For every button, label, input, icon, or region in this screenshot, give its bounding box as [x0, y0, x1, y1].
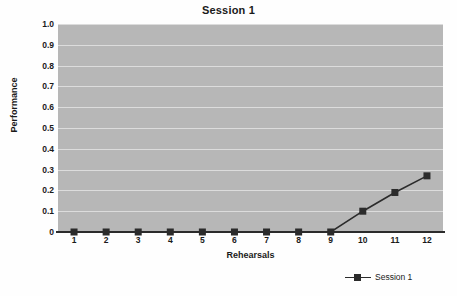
x-axis-tick-label: 6: [221, 236, 247, 245]
legend-square-marker-icon: [345, 273, 371, 282]
legend-marker: [354, 274, 361, 281]
chart-legend: Session 1: [345, 272, 412, 282]
chart-container: Session 1 Performance 00.10.20.30.40.50.…: [0, 0, 457, 296]
y-axis-tick-label: 0.4: [20, 145, 54, 154]
y-axis-tick-label: 1.0: [20, 20, 54, 29]
y-axis-tick-label: 0.9: [20, 41, 54, 50]
y-axis-title: Performance: [9, 60, 19, 150]
y-axis-tick-label: 0.3: [20, 165, 54, 174]
x-axis-tick-label: 4: [157, 236, 183, 245]
x-axis-tick-label: 9: [318, 236, 344, 245]
x-axis-tick-label: 3: [125, 236, 151, 245]
data-point-marker: [391, 189, 398, 196]
y-axis-tick-label: 0.5: [20, 124, 54, 133]
series-polyline: [74, 176, 427, 232]
data-point-marker: [359, 208, 366, 215]
x-axis-tick-label: 2: [93, 236, 119, 245]
plot-area: [58, 24, 443, 232]
y-axis-tick-label: 0.7: [20, 82, 54, 91]
series-line-session-1: [58, 24, 443, 232]
y-axis-tick-label: 0.1: [20, 207, 54, 216]
data-point-marker: [423, 172, 430, 179]
x-axis-tick-label: 7: [254, 236, 280, 245]
x-axis-tick-label: 1: [61, 236, 87, 245]
x-axis-tick-label: 10: [350, 236, 376, 245]
x-axis-tick-label: 12: [414, 236, 440, 245]
y-axis-tick-label: 0: [20, 228, 54, 237]
x-axis-title: Rehearsals: [58, 250, 443, 260]
x-axis-tick-label: 5: [189, 236, 215, 245]
legend-label-session-1: Session 1: [375, 272, 412, 282]
chart-title: Session 1: [0, 4, 457, 16]
y-axis-tick-label: 0.6: [20, 103, 54, 112]
y-axis-tick-label: 0.2: [20, 186, 54, 195]
x-axis-tick-label: 8: [286, 236, 312, 245]
y-axis-tick-labels: 00.10.20.30.40.50.60.70.80.91.0: [20, 24, 54, 232]
x-axis-tick-labels: 123456789101112: [58, 236, 443, 250]
y-axis-tick-label: 0.8: [20, 61, 54, 70]
x-axis-tick-label: 11: [382, 236, 408, 245]
x-axis-line: [56, 231, 445, 233]
